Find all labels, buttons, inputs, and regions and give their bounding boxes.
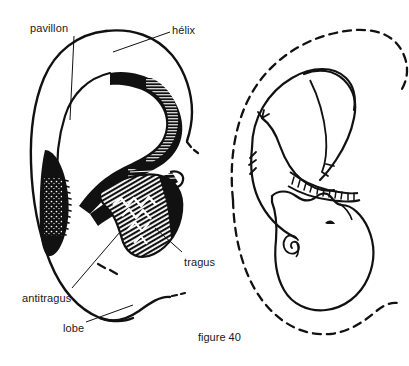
concha-stipple bbox=[44, 178, 62, 236]
ear-lobe bbox=[100, 297, 170, 321]
label-lobe: lobe bbox=[63, 322, 84, 334]
ear-lobe-tail-dash bbox=[172, 293, 185, 296]
fetus-thigh-line bbox=[310, 80, 326, 172]
figure-caption: figure 40 bbox=[198, 331, 241, 343]
label-helix: hélix bbox=[172, 24, 195, 36]
helix-tail-dash bbox=[187, 142, 198, 153]
label-pavillon: pavillon bbox=[30, 22, 68, 34]
fetus-head-crown bbox=[304, 71, 355, 180]
intertragic-dash bbox=[98, 264, 117, 274]
fetus-ear-spiral bbox=[284, 235, 299, 253]
fetus-eye-mark bbox=[325, 220, 335, 224]
figure-container: pavillon hélix tragus antitragus lobe fi… bbox=[0, 0, 409, 366]
label-antitragus: antitragus bbox=[22, 292, 71, 304]
fetus-back-outline bbox=[252, 69, 355, 148]
scapha-inner-line bbox=[57, 73, 110, 184]
label-tragus: tragus bbox=[184, 256, 215, 268]
ear-diagram-group bbox=[31, 30, 198, 322]
leader-line-antitragus bbox=[72, 232, 120, 288]
figure-illustration bbox=[0, 0, 409, 366]
fetus-diagram-group bbox=[232, 30, 407, 334]
fetus-arm-outline bbox=[262, 118, 334, 191]
fetus-ear-tail bbox=[296, 243, 298, 257]
leader-line-pavillon bbox=[70, 36, 74, 120]
